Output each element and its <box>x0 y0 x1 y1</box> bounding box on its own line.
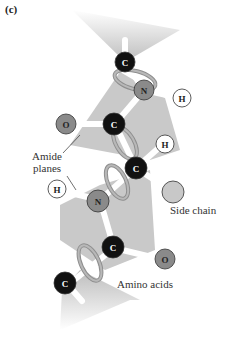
atom-side-chain <box>162 181 184 203</box>
atom-c-bottom: C <box>54 272 76 294</box>
polypeptide-diagram: C N H O C H C <box>0 0 230 339</box>
svg-text:C: C <box>110 243 117 253</box>
svg-text:C: C <box>133 164 140 174</box>
svg-text:C: C <box>111 120 118 130</box>
label-side-chain: Side chain <box>170 204 216 216</box>
atom-n-mid: N <box>87 190 109 212</box>
svg-text:H: H <box>178 94 185 104</box>
atom-o-left: O <box>56 114 76 134</box>
atom-c-carbonyl-2: C <box>102 236 124 258</box>
svg-text:C: C <box>62 279 69 289</box>
atom-h-alpha: H <box>156 135 174 153</box>
atom-c-alpha: C <box>125 157 147 179</box>
atom-c-carbonyl-1: C <box>103 113 125 135</box>
atom-h-n: H <box>48 180 66 198</box>
label-amide-planes-line2: planes <box>33 162 61 174</box>
label-amide-planes-line1: Amide <box>32 150 62 162</box>
atom-o-right: O <box>155 249 175 269</box>
panel-label: (c) <box>5 3 17 15</box>
svg-text:H: H <box>161 140 168 150</box>
svg-text:N: N <box>95 197 102 207</box>
atom-h-top: H <box>173 89 191 107</box>
svg-text:O: O <box>62 120 69 130</box>
svg-text:H: H <box>53 185 60 195</box>
label-amino-acids: Amino acids <box>117 278 173 290</box>
svg-text:N: N <box>141 86 148 96</box>
atom-c-top: C <box>115 52 135 72</box>
atom-n-top: N <box>134 80 154 100</box>
svg-text:C: C <box>122 58 129 68</box>
svg-text:O: O <box>161 255 168 265</box>
